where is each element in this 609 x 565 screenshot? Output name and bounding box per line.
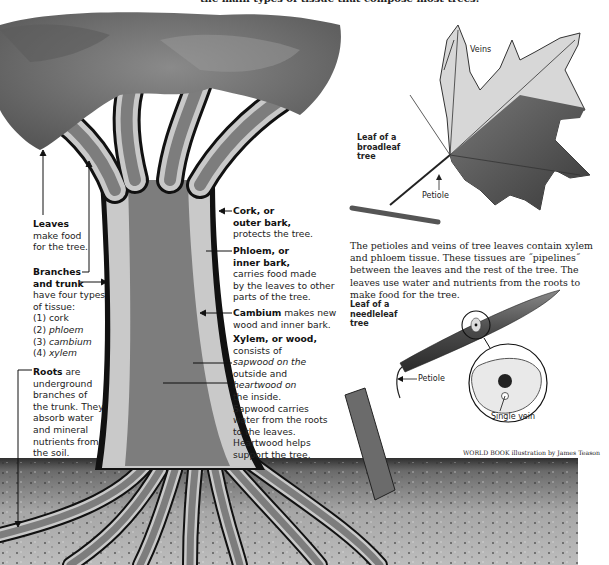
cork-title-2: outer bark,	[233, 217, 291, 228]
cork-title-1: Cork, or	[233, 205, 274, 216]
branches-text-1: have four types	[33, 289, 105, 301]
roots-text-6: nutrients from	[33, 436, 104, 448]
leaf-description: The petioles and veins of tree leaves co…	[350, 240, 608, 301]
xylem-title: Xylem, or wood,	[233, 333, 317, 344]
xylem-line-1: consists of	[233, 345, 328, 357]
xylem-line-10: support the tree.	[233, 449, 328, 461]
illustration-credit: WORLD BOOK illustration by James Teason	[463, 449, 600, 456]
cambium-label: Cambium makes new wood and inner bark.	[233, 307, 336, 330]
phloem-text-1: carries food made	[233, 268, 334, 280]
tissue-list-item-4: (4) xylem	[33, 347, 105, 359]
xylem-line-5: the inside.	[233, 391, 328, 403]
xylem-line-7: water from the roots	[233, 414, 328, 426]
roots-text-2: branches of	[33, 389, 104, 401]
leaves-label: Leaves make food for the tree.	[33, 218, 88, 253]
cambium-title: Cambium	[233, 307, 281, 318]
xylem-line-3: outside and	[233, 368, 328, 380]
xylem-line-8: to the leaves.	[233, 426, 328, 438]
broadleaf-leaf	[352, 25, 590, 222]
cork-label: Cork, or outer bark, protects the tree.	[233, 205, 313, 240]
branches-title-1: Branches	[33, 266, 81, 277]
xylem-line-6: Sapwood carries	[233, 403, 328, 415]
leaves-text-1: make food	[33, 230, 88, 242]
phloem-label: Phloem, or inner bark, carries food made…	[233, 245, 334, 303]
roots-text-1: underground	[33, 378, 104, 390]
broadleaf-petiole-label: Petiole	[422, 191, 449, 200]
branches-text-2: of tissue:	[33, 301, 105, 313]
roots-text-4: absorb water	[33, 412, 104, 424]
roots-text-7: the soil.	[33, 447, 104, 459]
phloem-title-2: inner bark,	[233, 257, 290, 268]
xylem-line-2: sapwood on the	[233, 356, 328, 368]
roots-text-3: the trunk. They	[33, 401, 104, 413]
veins-label: Veins	[470, 45, 491, 54]
branches-label: Branches and trunk have four types of ti…	[33, 266, 105, 359]
xylem-label: Xylem, or wood, consists of sapwood on t…	[233, 333, 328, 461]
needleleaf-petiole-label: Petiole	[418, 374, 445, 383]
branches-title-2: and trunk	[33, 278, 84, 289]
cork-text: protects the tree.	[233, 228, 313, 240]
xylem-line-4: heartwood on	[233, 379, 328, 391]
leaves-text-2: for the tree.	[33, 241, 88, 253]
tissue-list-item-2: (2) phloem	[33, 324, 105, 336]
leaves-title: Leaves	[33, 218, 69, 229]
phloem-text-2: by the leaves to other	[233, 280, 334, 292]
roots-label: Roots are underground branches of the tr…	[33, 366, 104, 459]
cambium-text: wood and inner bark.	[233, 319, 336, 331]
tissue-list-item-1: (1) cork	[33, 312, 105, 324]
xylem-line-9: Heartwood helps	[233, 437, 328, 449]
tissue-list-item-3: (3) cambium	[33, 336, 105, 348]
broadleaf-title: Leaf of a broadleaf tree	[357, 133, 400, 162]
needleleaf-title: Leaf of a needleleaf tree	[350, 300, 398, 329]
phloem-title-1: Phloem, or	[233, 245, 289, 256]
single-vein-label: Single vein	[491, 412, 535, 421]
phloem-text-3: parts of the tree.	[233, 291, 334, 303]
roots-title: Roots	[33, 366, 63, 377]
top-caption: the main types of tissue that compose mo…	[200, 0, 479, 4]
roots-text-5: and mineral	[33, 424, 104, 436]
